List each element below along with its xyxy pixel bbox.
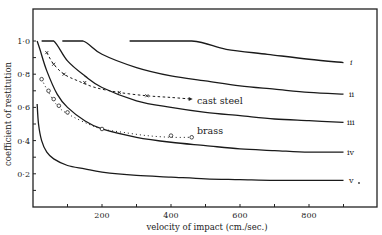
circle-marker	[57, 104, 61, 108]
curve-label-i: i	[350, 58, 353, 67]
restitution-chart: 2004006008001·00·80·60·40·2 velocity of …	[0, 0, 382, 235]
curve-label-iii: iii	[347, 118, 355, 127]
circle-marker	[40, 77, 44, 81]
y-axis-title: coefficient of restitution	[3, 62, 13, 166]
x-marker	[52, 63, 55, 66]
x-marker	[63, 73, 66, 76]
curves	[37, 41, 343, 180]
curve-brass	[42, 79, 192, 137]
y-tick-label: 0·2	[17, 170, 30, 179]
circle-marker	[100, 127, 104, 131]
curve-iii	[42, 41, 344, 122]
data-markers	[40, 51, 194, 139]
axis-ticks	[33, 41, 344, 207]
y-tick-label: 0·6	[17, 103, 30, 112]
y-tick-label: 1·0	[17, 37, 30, 46]
x-tick-label: 200	[94, 211, 109, 220]
x-tick-label: 600	[232, 211, 247, 220]
x-axis-title: velocity of impact (cm./sec.)	[145, 222, 267, 232]
cast-steel-label: cast steel	[197, 95, 243, 106]
circle-marker	[169, 134, 173, 138]
circle-marker	[52, 97, 56, 101]
x-tick-label: 800	[301, 211, 316, 220]
x-tick-label: 400	[163, 211, 178, 220]
axis-tick-labels: 2004006008001·00·80·60·40·2	[17, 37, 316, 220]
y-tick-label: 0·8	[17, 70, 30, 79]
plot-frame	[33, 9, 377, 207]
arrowhead-icon	[189, 97, 193, 101]
x-marker	[45, 51, 48, 54]
circle-marker	[190, 135, 194, 139]
curve-label-iv: iv	[347, 148, 355, 157]
curve-label-ii: ii	[349, 90, 355, 99]
circle-marker	[66, 111, 70, 115]
stray-dot	[358, 182, 360, 184]
curve-label-v: v	[348, 176, 354, 185]
y-tick-label: 0·4	[17, 137, 30, 146]
curve-ii	[62, 41, 343, 94]
circle-marker	[47, 89, 51, 93]
curve-v	[37, 104, 343, 180]
brass-label: brass	[197, 125, 223, 136]
curve-i	[130, 41, 344, 63]
